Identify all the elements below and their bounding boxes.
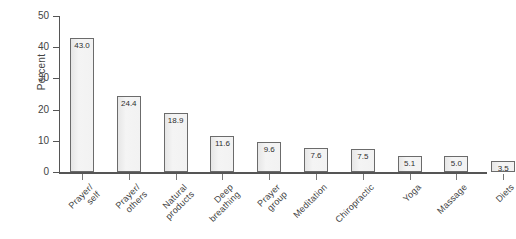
y-tick-label: 20 [27, 105, 49, 115]
bar-value-label: 11.6 [211, 139, 233, 148]
y-tick-mark [53, 110, 59, 111]
category-label-line1: Massage [436, 182, 470, 216]
category-label-line1: Diets [494, 182, 516, 204]
bar-value-label: 5.1 [399, 159, 421, 168]
x-axis-line [59, 172, 487, 174]
y-tick-mark [53, 141, 59, 142]
bar-value-label: 24.4 [118, 99, 140, 108]
category-label-line1: Meditation [291, 182, 329, 220]
y-axis-line [59, 16, 60, 173]
y-tick-label: 50 [27, 11, 49, 21]
category-label: Diets [460, 182, 516, 239]
y-tick-10: 10 [0, 141, 59, 142]
y-tick-20: 20 [0, 110, 59, 111]
bar: 5.1 [398, 156, 422, 172]
y-tick-0: 0 [0, 172, 59, 173]
x-tick-mark [82, 174, 83, 180]
bar-value-label: 18.9 [165, 116, 187, 125]
category-label-line1: Chiropractic [333, 182, 376, 225]
bar: 7.5 [351, 149, 375, 172]
x-tick-mark [269, 174, 270, 180]
bar-value-label: 7.5 [352, 152, 374, 161]
bar: 11.6 [210, 136, 234, 172]
y-tick-mark [53, 16, 59, 17]
y-tick-label: 40 [27, 42, 49, 52]
bar-value-label: 43.0 [71, 41, 93, 50]
bar-value-label: 9.6 [258, 145, 280, 154]
x-tick-mark [363, 174, 364, 180]
y-tick-label: 10 [27, 136, 49, 146]
y-tick-40: 40 [0, 47, 59, 48]
y-tick-label: 0 [27, 167, 49, 177]
x-tick-mark [410, 174, 411, 180]
bar: 9.6 [257, 142, 281, 172]
bar-value-label: 7.6 [305, 151, 327, 160]
bar: 7.6 [304, 148, 328, 172]
x-tick-mark [222, 174, 223, 180]
bar-value-label: 5.0 [445, 159, 467, 168]
x-tick-mark [503, 174, 504, 180]
y-tick-mark [53, 47, 59, 48]
bar-value-label: 3.5 [492, 164, 514, 173]
bar: 24.4 [117, 96, 141, 172]
x-tick-mark [316, 174, 317, 180]
bar: 5.0 [444, 156, 468, 172]
y-tick-label: 30 [27, 73, 49, 83]
bar: 18.9 [164, 113, 188, 172]
x-tick-mark [129, 174, 130, 180]
bar: 43.0 [70, 38, 94, 172]
y-tick-mark [53, 78, 59, 79]
bar: 3.5 [491, 161, 515, 172]
x-tick-mark [176, 174, 177, 180]
category-label-line1: Yoga [401, 182, 423, 204]
y-tick-30: 30 [0, 78, 59, 79]
x-tick-mark [456, 174, 457, 180]
y-tick-50: 50 [0, 16, 59, 17]
